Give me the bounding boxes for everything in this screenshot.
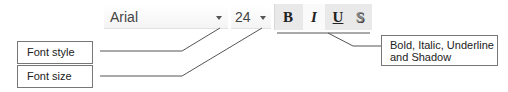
format-buttons-leader [328, 33, 381, 46]
font-size-callout-text: Font size [27, 70, 72, 82]
format-buttons-callout-line2: and Shadow [390, 51, 497, 63]
font-style-callout: Font style [17, 41, 93, 64]
format-buttons-callout-line1: Bold, Italic, Underline [390, 39, 497, 51]
font-style-leader [100, 28, 220, 51]
format-buttons-callout: Bold, Italic, Underline and Shadow [381, 35, 498, 66]
font-size-callout: Font size [17, 65, 93, 88]
font-style-callout-text: Font style [27, 46, 75, 58]
font-size-leader [100, 28, 262, 76]
